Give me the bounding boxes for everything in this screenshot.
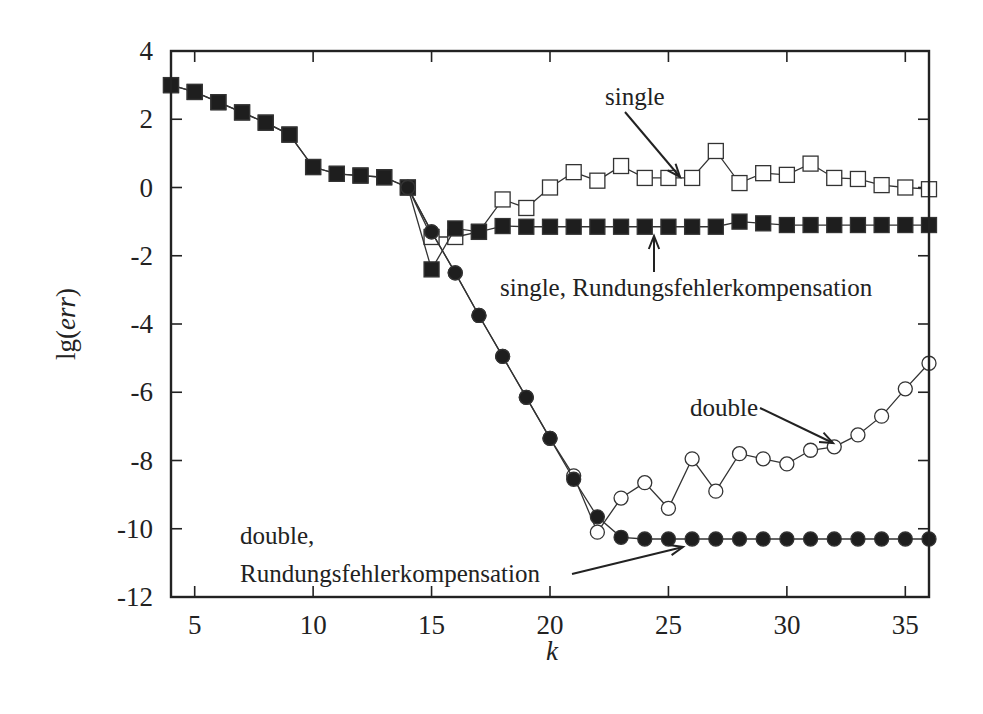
x-tick-label: 30 (773, 610, 800, 640)
data-point (827, 170, 842, 185)
data-point (850, 218, 865, 233)
data-point (377, 170, 392, 185)
data-point (425, 225, 439, 239)
y-axis-title-prefix: lg( (51, 330, 81, 360)
axis-tick-labels: 5101520253035420-2-4-6-8-10-12 (117, 36, 919, 640)
y-axis-title-var: err (51, 297, 81, 330)
data-point (329, 166, 344, 181)
data-point (780, 457, 794, 471)
x-tick-label: 10 (300, 610, 327, 640)
data-series (164, 78, 937, 546)
data-point (519, 200, 534, 215)
data-point (804, 443, 818, 457)
data-point (235, 105, 250, 120)
data-point (685, 219, 700, 234)
data-point (638, 532, 652, 546)
annotation-label: Rundungsfehlerkompensation (240, 560, 540, 587)
y-tick-label: -10 (117, 514, 153, 544)
data-point (733, 532, 747, 546)
data-point (471, 224, 486, 239)
data-point (614, 491, 628, 505)
data-point (638, 476, 652, 490)
data-point (496, 349, 510, 363)
data-point (803, 156, 818, 171)
series-line (171, 85, 929, 269)
data-point (803, 218, 818, 233)
data-point (780, 532, 794, 546)
data-point (566, 219, 581, 234)
annotation-label: single (605, 83, 665, 110)
x-tick-label: 25 (655, 610, 682, 640)
data-point (495, 219, 510, 234)
x-axis-title: k (546, 636, 559, 666)
data-point (875, 532, 889, 546)
data-point (306, 160, 321, 175)
annotation-arrow (760, 408, 833, 443)
data-point (898, 218, 913, 233)
data-point (590, 510, 604, 524)
data-point (614, 219, 629, 234)
data-point (756, 532, 770, 546)
data-point (850, 171, 865, 186)
y-tick-label: 4 (140, 36, 154, 66)
data-point (519, 219, 534, 234)
data-point (804, 532, 818, 546)
series-filled-square (164, 78, 937, 277)
data-point (495, 192, 510, 207)
y-tick-label: -2 (131, 241, 154, 271)
data-point (187, 84, 202, 99)
y-axis-title: lg(err) (51, 288, 81, 360)
data-point (543, 431, 557, 445)
data-point (401, 181, 415, 195)
data-point (519, 390, 533, 404)
y-tick-label: 0 (140, 173, 154, 203)
data-point (353, 168, 368, 183)
x-tick-label: 15 (418, 610, 445, 640)
data-point (708, 219, 723, 234)
x-tick-label: 35 (892, 610, 919, 640)
data-point (211, 95, 226, 110)
data-point (685, 452, 699, 466)
series-line (408, 188, 929, 539)
data-point (590, 219, 605, 234)
data-point (258, 115, 273, 130)
series-annotations: singlesingle, Rundungsfehlerkompensation… (240, 83, 873, 587)
data-point (543, 219, 558, 234)
data-point (614, 159, 629, 174)
data-point (685, 532, 699, 546)
data-point (875, 409, 889, 423)
data-point (282, 127, 297, 142)
line-chart: 5101520253035420-2-4-6-8-10-12 singlesin… (0, 0, 983, 714)
data-point (424, 262, 439, 277)
y-tick-label: 2 (140, 104, 154, 134)
annotation-label: double (690, 394, 758, 421)
y-tick-label: -6 (131, 377, 154, 407)
data-point (756, 166, 771, 181)
data-point (637, 170, 652, 185)
data-point (448, 266, 462, 280)
data-point (567, 472, 581, 486)
data-point (874, 178, 889, 193)
data-point (898, 382, 912, 396)
data-point (709, 532, 723, 546)
data-point (448, 221, 463, 236)
data-point (661, 532, 675, 546)
data-point (898, 532, 912, 546)
data-point (472, 308, 486, 322)
y-tick-label: -12 (117, 582, 153, 612)
data-point (756, 216, 771, 231)
data-point (637, 219, 652, 234)
data-point (709, 484, 723, 498)
annotation-arrow (625, 112, 680, 177)
data-point (661, 501, 675, 515)
data-point (685, 170, 700, 185)
data-point (708, 143, 723, 158)
data-point (779, 167, 794, 182)
y-tick-label: -8 (131, 446, 154, 476)
x-tick-label: 5 (188, 610, 202, 640)
data-point (590, 173, 605, 188)
data-point (590, 525, 604, 539)
data-point (874, 218, 889, 233)
data-point (898, 180, 913, 195)
data-point (756, 452, 770, 466)
